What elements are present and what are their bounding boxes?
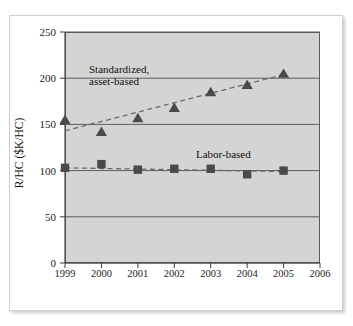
y-tick-label-250: 250 <box>0 26 56 38</box>
x-tick-label-2002: 2002 <box>164 268 185 279</box>
y-tick-label-200: 200 <box>0 72 56 84</box>
y-tick-label-150: 150 <box>0 118 56 130</box>
annotation-standardized-line1: Standardized, <box>89 63 149 75</box>
x-tick-label-2004: 2004 <box>237 268 258 279</box>
chart: R/HC ($K/HC) Standardized, asset-based L… <box>0 0 353 326</box>
y-tick-label-50: 50 <box>0 211 56 223</box>
annotation-labor-line1: Labor-based <box>196 148 251 160</box>
x-tick-label-2001: 2001 <box>127 268 148 279</box>
x-tick-label-2005: 2005 <box>273 268 294 279</box>
x-tick-label-2000: 2000 <box>91 268 112 279</box>
annotation-standardized-asset-based: Standardized, asset-based <box>89 63 149 88</box>
y-tick-label-100: 100 <box>0 165 56 177</box>
x-tick-label-1999: 1999 <box>55 268 76 279</box>
y-tick-label-0: 0 <box>0 257 56 269</box>
annotation-labor-based: Labor-based <box>196 148 251 160</box>
x-tick-label-2006: 2006 <box>310 268 331 279</box>
x-tick-label-2003: 2003 <box>200 268 221 279</box>
annotation-standardized-line2: asset-based <box>89 75 149 87</box>
